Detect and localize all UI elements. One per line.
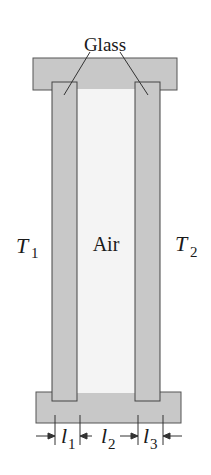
double-pane-window-diagram: Glass Air T 1 T 2 l 1 l 2 l 3 (0, 0, 211, 475)
svg-text:2: 2 (190, 244, 198, 260)
left-glass-pane (52, 82, 77, 401)
air-label: Air (93, 233, 120, 255)
svg-text:2: 2 (108, 436, 116, 452)
svg-text:T: T (175, 231, 189, 256)
l2-label: l 2 (101, 423, 116, 452)
l1-label: l 1 (61, 423, 76, 452)
svg-text:1: 1 (68, 436, 76, 452)
svg-text:l: l (143, 423, 149, 448)
right-glass-pane (135, 82, 160, 401)
svg-text:1: 1 (31, 245, 39, 261)
svg-text:l: l (101, 423, 107, 448)
svg-text:T: T (16, 233, 30, 258)
t2-label: T 2 (175, 231, 198, 260)
svg-text:3: 3 (150, 436, 158, 452)
t1-label: T 1 (16, 233, 39, 261)
svg-text:l: l (61, 423, 67, 448)
l3-label: l 3 (143, 423, 158, 452)
glass-label: Glass (84, 34, 126, 55)
